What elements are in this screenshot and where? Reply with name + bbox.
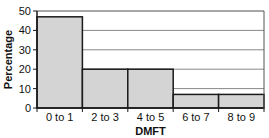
- y-tick-label: 30: [19, 44, 31, 56]
- x-tick-label: 8 to 9: [228, 111, 256, 123]
- bar: [82, 69, 127, 108]
- bar: [128, 69, 173, 108]
- y-tick-label: 20: [19, 63, 31, 75]
- y-axis-label: Percentage: [2, 30, 14, 89]
- histogram-chart: 010203040500 to 12 to 34 to 56 to 78 to …: [0, 0, 269, 138]
- bar: [173, 94, 218, 108]
- x-tick-label: 2 to 3: [91, 111, 119, 123]
- x-axis-label: DMFT: [135, 125, 166, 137]
- y-tick-label: 10: [19, 83, 31, 95]
- y-tick-label: 40: [19, 24, 31, 36]
- y-tick-label: 50: [19, 5, 31, 17]
- x-tick-label: 6 to 7: [182, 111, 210, 123]
- x-tick-label: 0 to 1: [46, 111, 74, 123]
- bar: [219, 94, 264, 108]
- x-tick-label: 4 to 5: [137, 111, 165, 123]
- chart-canvas: 010203040500 to 12 to 34 to 56 to 78 to …: [0, 0, 269, 138]
- bar: [37, 17, 82, 108]
- y-tick-label: 0: [25, 102, 31, 114]
